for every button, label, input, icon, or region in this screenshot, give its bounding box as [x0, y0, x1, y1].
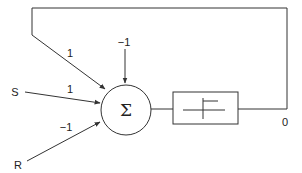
r-weight-label: −1 — [60, 121, 73, 133]
feedback-neuron-diagram: Σ S R 1 1 −1 −1 0 — [0, 0, 302, 173]
bias-label: −1 — [118, 36, 131, 48]
s-input-label: S — [11, 86, 18, 98]
step-function-icon — [183, 98, 225, 119]
sigma-symbol: Σ — [120, 100, 132, 120]
step-function-box — [173, 92, 238, 124]
output-label: 0 — [282, 116, 288, 128]
s-input-line — [25, 92, 100, 103]
r-input-label: R — [14, 159, 22, 171]
feedback-weight-label: 1 — [67, 47, 73, 59]
s-weight-label: 1 — [67, 83, 73, 95]
